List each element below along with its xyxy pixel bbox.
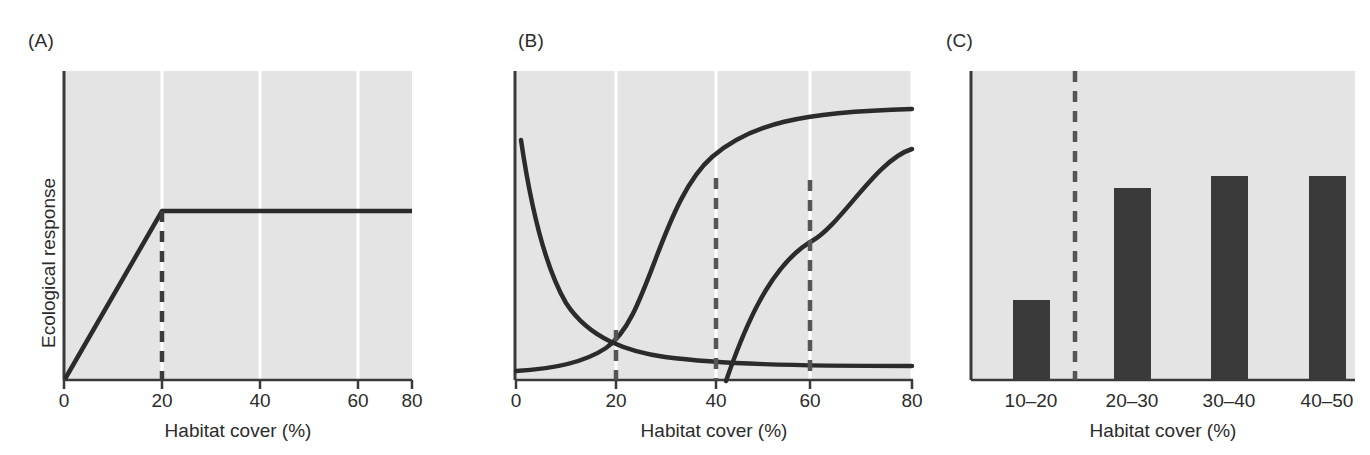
- panel-b-tick-20: 20: [605, 390, 626, 412]
- panel-c-bar-30-40: [1211, 176, 1248, 380]
- panel-a-tick-0: 0: [59, 390, 70, 412]
- panel-a: (A) Ecological response 0 20 40: [0, 0, 460, 455]
- panel-c: (C) 10–20 20–30 30–40 40–50 Habitat cove…: [920, 0, 1370, 455]
- panel-b-tick-60: 60: [799, 390, 820, 412]
- panel-a-tick-80: 80: [401, 390, 422, 412]
- figure-container: (A) Ecological response 0 20 40: [0, 0, 1370, 455]
- panel-c-tick-30-40: 30–40: [1203, 390, 1256, 412]
- panel-a-tick-20: 20: [151, 390, 172, 412]
- panel-a-tick-60: 60: [347, 390, 368, 412]
- panel-c-x-axis-label: Habitat cover (%): [971, 420, 1355, 442]
- panel-c-bar-20-30: [1114, 188, 1151, 380]
- panel-b-x-axis-label: Habitat cover (%): [515, 420, 913, 442]
- panel-b: (B): [460, 0, 920, 455]
- panel-a-x-axis-label: Habitat cover (%): [64, 420, 412, 442]
- panel-c-tick-40-50: 40–50: [1301, 390, 1354, 412]
- panel-c-bar-40-50: [1309, 176, 1346, 380]
- panel-a-plot: [0, 0, 460, 455]
- panel-a-plot-background: [64, 71, 412, 380]
- panel-c-plot: [920, 0, 1370, 455]
- panel-b-tick-40: 40: [705, 390, 726, 412]
- panel-a-tick-40: 40: [249, 390, 270, 412]
- panel-b-tick-0: 0: [511, 390, 522, 412]
- panel-b-plot: [460, 0, 920, 455]
- panel-c-tick-20-30: 20–30: [1106, 390, 1159, 412]
- panel-c-tick-10-20: 10–20: [1005, 390, 1058, 412]
- panel-c-bar-10-20: [1013, 300, 1050, 380]
